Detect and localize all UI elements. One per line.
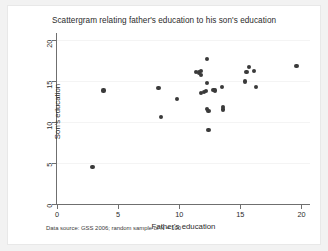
scatter-point <box>294 64 298 68</box>
x-tick-0 <box>57 205 58 209</box>
x-tick-label-0: 0 <box>55 211 59 218</box>
x-axis-line <box>56 204 310 205</box>
scatter-point <box>213 88 217 92</box>
scatter-point <box>159 115 163 119</box>
scatter-point <box>206 128 210 132</box>
scatter-point <box>156 86 160 90</box>
y-axis-title: Son's education <box>53 52 62 172</box>
x-tick-15 <box>240 205 241 209</box>
scatter-point <box>90 165 94 169</box>
scatter-point <box>206 109 210 113</box>
x-tick-label-20: 20 <box>297 211 305 218</box>
x-tick-label-10: 10 <box>175 211 183 218</box>
scatter-point <box>247 65 251 69</box>
scatter-point <box>252 69 256 73</box>
x-tick-label-15: 15 <box>236 211 244 218</box>
scatter-point <box>221 107 225 111</box>
x-tick-20 <box>301 205 302 209</box>
scatter-point <box>101 88 105 92</box>
plot-area: 05101520 05101520 Father's education Son… <box>57 33 310 204</box>
plot-background <box>57 33 310 204</box>
x-tick-5 <box>118 205 119 209</box>
scatter-point <box>244 70 248 74</box>
gridline-y-15 <box>57 81 310 82</box>
gridline-y-10 <box>57 122 310 123</box>
chart-title: Scattergram relating father's education … <box>8 16 320 25</box>
scatter-point <box>243 79 247 83</box>
x-tick-10 <box>179 205 180 209</box>
figure-canvas: Scattergram relating father's education … <box>8 6 320 244</box>
y-tick-label-0: 0 <box>46 204 53 208</box>
gridline-y-5 <box>57 163 310 164</box>
gridline-y-20 <box>57 40 310 41</box>
scatter-point <box>175 97 179 101</box>
chart-note: Data source: GSS 2006; random sample of … <box>46 225 181 231</box>
y-tick-label-20: 20 <box>46 39 53 47</box>
x-tick-label-5: 5 <box>116 211 120 218</box>
